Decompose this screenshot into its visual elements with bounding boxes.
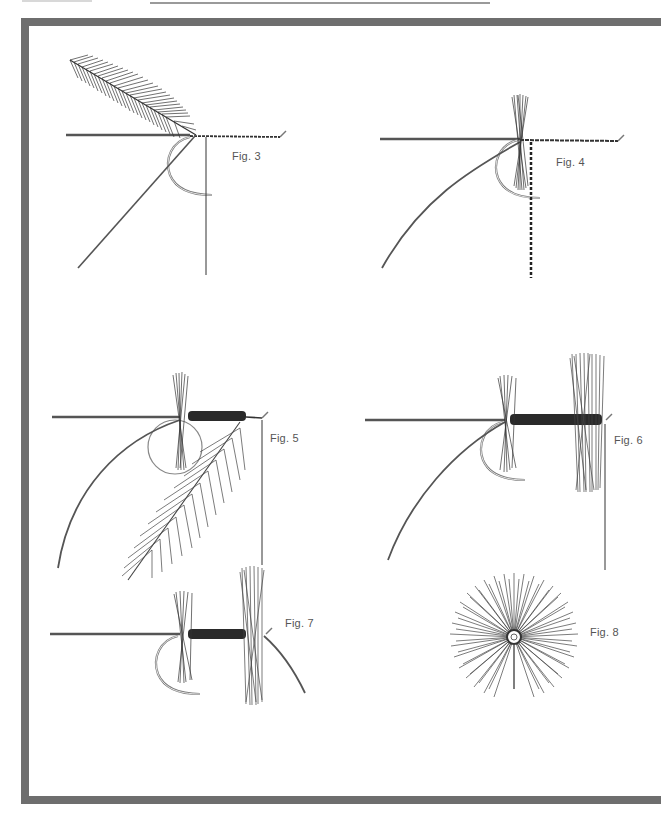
figure-7-drawing — [50, 566, 305, 705]
figure-5-drawing — [52, 372, 268, 580]
figure-6-drawing — [365, 353, 612, 570]
figure-4-drawing — [380, 94, 624, 278]
figure-7-label: Fig. 7 — [285, 617, 314, 629]
figure-5-label: Fig. 5 — [270, 432, 299, 444]
figure-3-label: Fig. 3 — [232, 150, 261, 162]
figure-8-drawing — [450, 573, 578, 697]
figure-8-label: Fig. 8 — [590, 626, 619, 638]
figure-3-drawing — [66, 55, 286, 275]
figure-6-label: Fig. 6 — [614, 434, 643, 446]
figure-4-label: Fig. 4 — [556, 156, 585, 168]
